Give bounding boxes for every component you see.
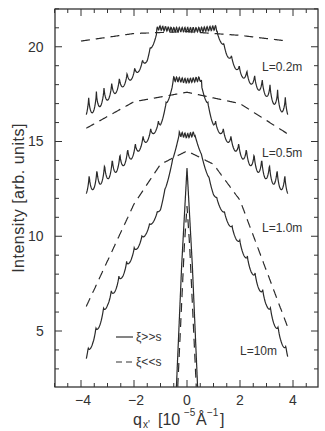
x-label-sub: x' bbox=[143, 419, 150, 430]
x-tick-0: 0 bbox=[183, 392, 191, 408]
plot-curves bbox=[81, 26, 288, 387]
label-L-0.2m: L=0.2m bbox=[262, 60, 302, 74]
y-tick-5: 5 bbox=[36, 323, 44, 339]
y-axis-label: Intensity [arb. units] bbox=[10, 123, 27, 273]
x-label-exp: −5 bbox=[184, 407, 196, 418]
intensity-chart: 5 10 15 20 −4 −2 0 2 4 Intensity [arb. u… bbox=[0, 0, 325, 431]
label-L-10m: L=10m bbox=[240, 344, 277, 358]
legend: ξ>>s ξ<<s bbox=[116, 330, 161, 369]
x-label-exp2: −1 bbox=[207, 407, 219, 418]
legend-dashed-label: ξ<<s bbox=[136, 355, 161, 369]
curve-l-0.2m-s bbox=[81, 32, 288, 41]
x-tick-2: 2 bbox=[236, 392, 244, 408]
legend-solid-label: ξ>>s bbox=[136, 330, 161, 344]
label-L-0.5m: L=0.5m bbox=[262, 146, 302, 160]
label-L-1.0m: L=1.0m bbox=[262, 221, 302, 235]
curve-l-0.5m-s bbox=[86, 92, 287, 134]
x-label-q: q bbox=[133, 411, 142, 428]
y-tick-15: 15 bbox=[28, 133, 44, 149]
y-tick-10: 10 bbox=[28, 228, 44, 244]
y-tick-20: 20 bbox=[28, 39, 44, 55]
x-tick-neg4: −4 bbox=[75, 392, 91, 408]
x-label-units-close: ] bbox=[220, 411, 224, 428]
curve-l-1.0m-s bbox=[86, 132, 287, 359]
x-label-units-open: [10 bbox=[158, 411, 180, 428]
x-axis-label: q x' [10 −5 Å −1 ] bbox=[133, 407, 224, 430]
x-tick-neg2: −2 bbox=[128, 392, 144, 408]
x-tick-4: 4 bbox=[289, 392, 297, 408]
curve-l-0.2m-s bbox=[86, 26, 287, 115]
x-label-angstrom: Å bbox=[196, 410, 207, 428]
